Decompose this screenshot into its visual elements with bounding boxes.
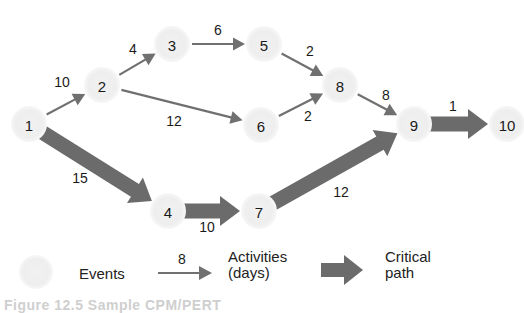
- event-node-2: 2: [84, 67, 120, 103]
- event-number: 7: [255, 204, 263, 221]
- activity-arrow-2-3: [119, 54, 155, 75]
- event-node-6: 6: [243, 107, 279, 143]
- event-number: 4: [164, 204, 172, 221]
- legend-critical-arrow-icon: [321, 255, 363, 285]
- legend-events-label: Events: [79, 266, 125, 282]
- activity-arrow-2-6: [121, 90, 242, 124]
- activity-arrow-1-2: [47, 94, 86, 115]
- event-node-4: 4: [150, 193, 186, 229]
- legend-event-circle-icon: [19, 255, 53, 289]
- event-node-9: 9: [396, 106, 432, 142]
- legend-activities-line2: (days): [228, 265, 287, 281]
- activity-duration-1-2: 10: [54, 74, 70, 90]
- legend-graphics: 8: [19, 251, 363, 289]
- activity-arrow-1-4-critical: [39, 126, 152, 203]
- event-number: 8: [336, 78, 344, 95]
- event-number: 10: [499, 117, 516, 134]
- event-node-7: 7: [241, 193, 277, 229]
- activity-arrow-5-8: [282, 53, 324, 76]
- activity-arrow-9-10-critical: [430, 109, 488, 139]
- activity-arrow-6-8: [279, 93, 323, 116]
- event-number: 6: [257, 118, 265, 135]
- event-number: 5: [260, 37, 268, 54]
- legend-critical-path-label: Critical path: [385, 249, 431, 281]
- legend-activities-label: Activities (days): [228, 249, 287, 281]
- legend-activities-line1: Activities: [228, 249, 287, 265]
- legend-critical-line1: Critical: [385, 249, 431, 265]
- activity-arrow-8-9: [358, 94, 397, 115]
- activity-duration-1-4: 15: [72, 170, 88, 186]
- event-number: 3: [168, 37, 176, 54]
- activity-duration-8-9: 8: [382, 87, 390, 103]
- event-number: 9: [410, 117, 418, 134]
- event-node-3: 3: [154, 26, 190, 62]
- activity-duration-9-10: 1: [449, 98, 457, 114]
- event-node-1: 1: [11, 106, 47, 142]
- activity-duration-2-6: 12: [166, 113, 182, 129]
- activity-duration-2-3: 4: [129, 41, 137, 57]
- event-node-5: 5: [246, 26, 282, 62]
- legend-activity-days: 8: [178, 251, 186, 267]
- figure-caption: Figure 12.5 Sample CPM/PERT: [4, 297, 221, 313]
- activity-duration-7-9: 12: [333, 184, 349, 200]
- activity-duration-3-5: 6: [214, 22, 222, 38]
- event-number: 2: [98, 78, 106, 95]
- activity-duration-6-8: 2: [304, 108, 312, 124]
- event-number: 1: [25, 117, 33, 134]
- event-node-10: 10: [489, 106, 524, 142]
- activity-arrow-3-5: [192, 38, 245, 51]
- activity-duration-5-8: 2: [306, 43, 314, 59]
- activity-duration-4-7: 10: [199, 219, 215, 235]
- legend-critical-line2: path: [385, 265, 431, 281]
- legend-activity-arrow-icon: [158, 266, 212, 280]
- event-node-8: 8: [322, 67, 358, 103]
